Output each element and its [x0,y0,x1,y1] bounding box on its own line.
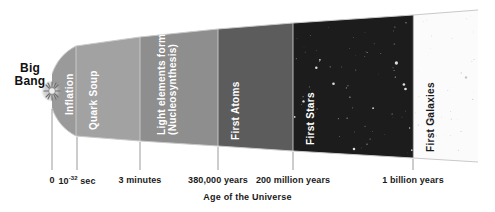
star-speck [365,51,366,52]
star-speck [353,37,354,38]
era-label-line: Quark Soup [88,70,99,130]
star-speck [294,116,296,118]
star-speck [472,99,473,100]
star-speck [392,117,393,118]
era-label: Inflation [64,73,75,115]
star-speck [310,89,311,90]
star-speck [372,107,374,109]
star-speck [431,35,432,36]
star-speck [405,22,406,23]
star-speck [310,35,311,36]
star-speck [297,38,298,39]
star-speck [403,83,406,86]
star-speck [418,71,419,72]
axis-tick-label: 3 minutes [119,175,162,185]
axis-tick-label: 0 [49,175,54,185]
era-label: Light elements form(Nucleosynthesis) [156,34,178,135]
big-bang-label-line2: Bang [8,75,52,88]
star-speck [430,48,431,49]
star-speck [349,97,350,98]
star-speck [366,144,367,145]
star-speck [408,153,409,154]
era-label: First Atoms [230,81,241,140]
star-speck [384,134,385,135]
star-speck [302,96,303,97]
axis-caption: Age of the Universe [0,192,495,202]
star-speck [395,61,398,64]
star-speck [364,56,365,57]
star-speck [436,135,437,136]
star-speck [367,52,368,53]
era-label: First Stars [305,92,316,145]
star-speck [393,67,394,68]
era-label-line: First Stars [305,92,316,145]
star-speck [319,59,321,61]
star-speck [444,134,445,135]
star-speck [309,86,310,87]
axis-tick-label: 200 million years [256,175,330,185]
star-speck [451,119,452,120]
star-speck [346,118,347,119]
star-speck [315,67,318,70]
star-speck [393,31,394,32]
star-speck [374,43,375,44]
axis-tick-label: 10-32 sec [58,175,95,186]
star-speck [450,111,451,112]
star-speck [352,107,353,108]
star-speck [450,87,451,88]
star-speck [470,16,471,17]
era-label-line: Inflation [64,73,75,115]
star-speck [415,112,416,113]
star-speck [447,90,448,91]
star-speck [369,138,370,139]
era-label-line: First Galaxies [425,82,436,152]
star-speck [465,76,467,78]
star-speck [365,32,366,33]
star-speck [473,91,474,92]
star-speck [402,117,403,118]
axis-tick-label: 1 billion years [382,175,444,185]
star-speck [301,104,302,105]
star-speck [458,150,459,151]
star-speck [426,19,427,20]
star-speck [418,124,419,125]
star-speck [392,113,393,114]
star-speck [378,74,379,75]
cosmic-timeline-figure: Big Bang InflationQuark SoupLight elemen… [0,0,495,212]
star-speck [423,21,424,22]
star-speck [341,67,342,68]
era-label: Quark Soup [88,70,99,130]
star-speck [354,131,355,132]
star-speck [328,27,329,28]
star-speck [347,85,348,86]
star-speck [349,48,350,49]
star-speck [353,148,356,151]
star-speck [316,50,317,51]
star-speck [372,131,373,132]
era-label: First Galaxies [425,82,436,152]
star-speck [316,108,317,109]
star-speck [332,82,335,85]
star-speck [361,148,362,149]
star-speck [394,26,395,27]
big-bang-label: Big Bang [8,62,52,88]
star-speck [473,59,474,60]
star-speck [355,69,356,70]
star-speck [439,101,440,102]
star-speck [441,116,442,117]
star-speck [364,126,365,127]
star-speck [404,88,407,91]
star-speck [330,66,331,67]
star-speck [394,70,395,71]
star-speck [355,55,356,56]
star-speck [346,87,347,88]
star-speck [418,96,419,97]
star-speck [471,61,472,62]
star-speck [409,127,410,128]
star-speck [457,119,458,120]
star-speck [461,72,462,73]
star-speck [395,76,396,77]
star-speck [411,149,413,151]
star-speck [339,136,340,137]
era-label-line: Light elements form [156,34,167,135]
